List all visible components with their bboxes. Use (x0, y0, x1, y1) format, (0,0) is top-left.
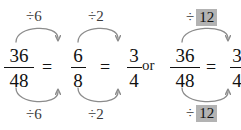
fraction-left-2: 6 8 (63, 46, 93, 90)
equals-sign-2: = (100, 58, 110, 76)
divisor-label-step1-bottom: ÷6 (26, 107, 42, 122)
equation-figure: 36 48 = 6 8 = 3 4 ÷6 ÷6 ÷2 ÷2 or 36 48 =… (0, 0, 241, 130)
division-symbol: ÷ (186, 105, 194, 121)
numerator: 36 (4, 46, 34, 67)
arrow-right-top (182, 28, 228, 42)
division-symbol: ÷ (186, 9, 194, 25)
fraction-right-1: 36 48 (170, 46, 200, 90)
divisor-label-right-top: ÷12 (186, 10, 217, 25)
divisor-label-step2-top: ÷2 (88, 9, 104, 24)
denominator: 4 (222, 68, 241, 90)
equals-sign-3: = (206, 58, 216, 76)
fraction-left-1: 36 48 (4, 46, 34, 90)
divisor-label-right-bottom: ÷12 (186, 106, 217, 121)
numerator: 36 (170, 46, 200, 67)
numerator: 3 (222, 46, 241, 67)
highlighted-divisor-top: 12 (196, 9, 217, 26)
conjunction-or: or (142, 58, 155, 73)
denominator: 8 (63, 68, 93, 90)
divisor-label-step2-bottom: ÷2 (88, 107, 104, 122)
fraction-right-2: 3 4 (222, 46, 241, 90)
highlighted-divisor-bottom: 12 (196, 105, 217, 122)
arrow-step2-top (78, 28, 118, 42)
arrow-step1-top (16, 28, 58, 42)
denominator: 48 (4, 68, 34, 90)
equals-sign-1: = (42, 58, 52, 76)
numerator: 6 (63, 46, 93, 67)
divisor-label-step1-top: ÷6 (26, 9, 42, 24)
denominator: 48 (170, 68, 200, 90)
